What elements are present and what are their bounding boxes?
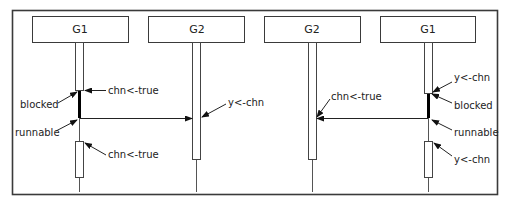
annotation-y-chn-right-2: y<-chn <box>434 143 490 165</box>
activation-bar <box>309 43 317 160</box>
annotation-blocked-left: blocked <box>20 92 77 110</box>
annotation-label: blocked <box>454 100 493 111</box>
annotation-label: runnable <box>15 127 60 138</box>
pointer-arrow <box>317 99 330 117</box>
annotation-chn-true-right: chn<-true <box>317 91 382 118</box>
participant-g2-right: G2 <box>265 17 361 193</box>
sequence-diagram: G1 G2 chn<-true blocked runnable chn<-tr… <box>0 0 508 207</box>
annotation-label: chn<-true <box>331 91 382 102</box>
annotation-label: y<-chn <box>454 72 490 83</box>
annotation-runnable-left: runnable <box>15 120 77 138</box>
pointer-arrow <box>432 120 452 130</box>
pointer-arrow <box>58 92 77 103</box>
annotation-label: chn<-true <box>108 149 159 160</box>
activation-bar <box>76 43 84 91</box>
annotation-runnable-right: runnable <box>432 120 499 138</box>
annotation-label: chn<-true <box>108 85 159 96</box>
annotation-label: runnable <box>454 127 499 138</box>
participant-label: G2 <box>304 23 320 36</box>
pointer-arrow <box>85 143 106 155</box>
participant-label: G1 <box>72 23 88 36</box>
annotation-label: blocked <box>20 99 59 110</box>
activation-bar <box>76 142 84 178</box>
annotation-chn-true-2: chn<-true <box>85 143 159 160</box>
annotation-label: y<-chn <box>228 97 264 108</box>
pointer-arrow <box>433 82 452 92</box>
activation-bar <box>425 142 433 178</box>
pointer-arrow <box>202 104 226 117</box>
annotation-blocked-right: blocked <box>432 94 493 111</box>
pointer-arrow <box>434 143 452 156</box>
pointer-arrow <box>432 94 452 103</box>
participant-label: G1 <box>420 23 436 36</box>
annotation-chn-true-1: chn<-true <box>85 85 159 96</box>
participant-label: G2 <box>189 23 205 36</box>
annotation-y-chn-right-1: y<-chn <box>433 72 490 93</box>
annotation-label: y<-chn <box>454 154 490 165</box>
activation-bar <box>425 43 433 94</box>
annotation-y-chn-left: y<-chn <box>202 97 264 118</box>
activation-bar <box>193 43 201 160</box>
